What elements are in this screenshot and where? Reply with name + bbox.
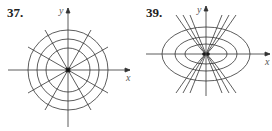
figure-39 (146, 6, 270, 96)
figures-svg: y x y x (0, 0, 272, 131)
fig39-y-label: y (196, 4, 202, 15)
fig37-x-label: x (125, 72, 131, 83)
fig39-x-label: x (264, 56, 270, 67)
fig37-y-label: y (58, 5, 64, 16)
figure-37 (8, 8, 130, 127)
exercise-figures: 37. 39. y x (0, 0, 272, 131)
